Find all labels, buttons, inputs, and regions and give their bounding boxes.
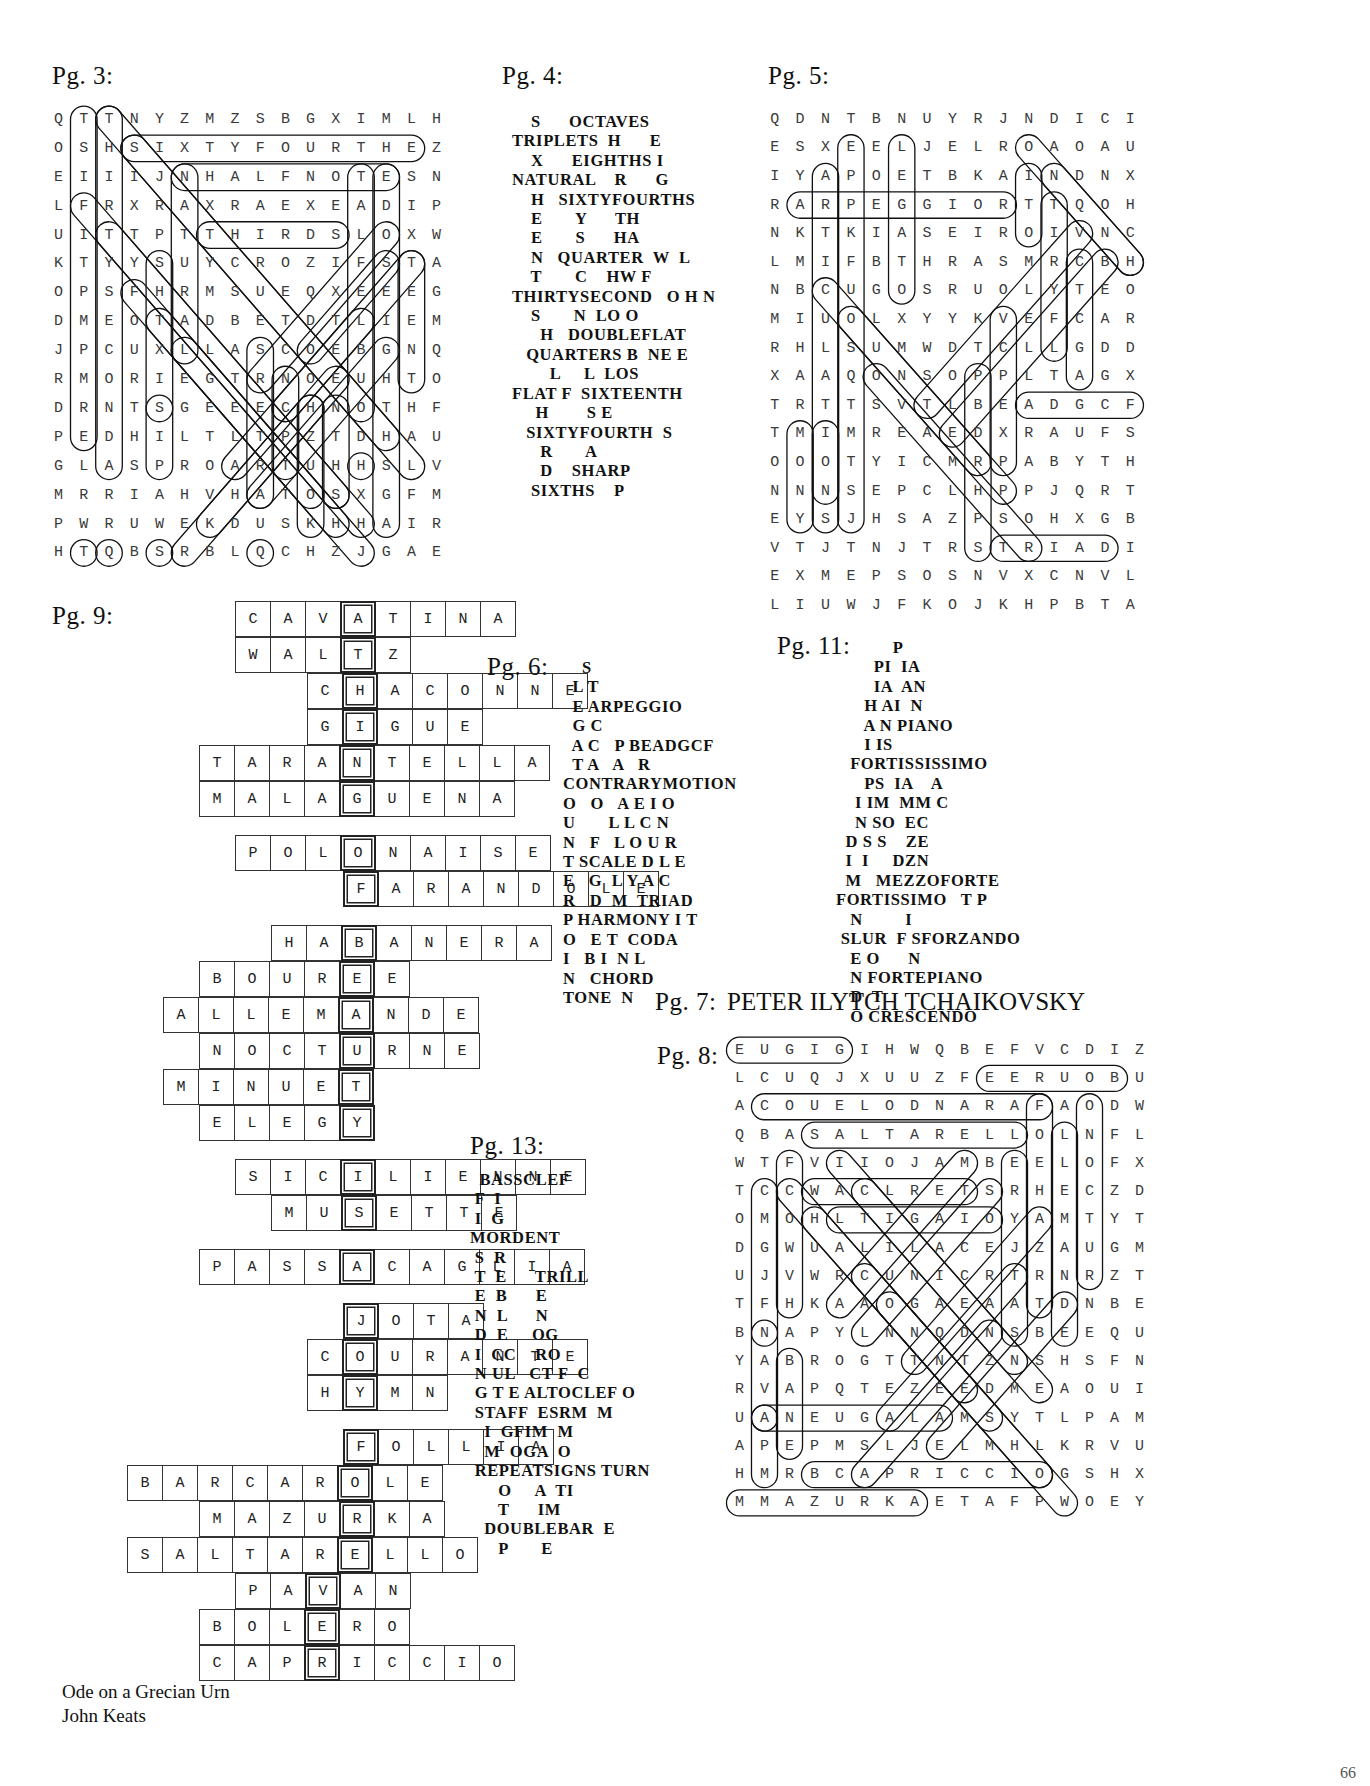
grid-letter: L <box>1050 340 1059 357</box>
grid-letter: I <box>155 429 164 446</box>
grid-letter: T <box>960 1494 969 1511</box>
grid-letter: D <box>985 1381 994 1398</box>
crossword-cell: M <box>199 1501 235 1537</box>
crossword-cell: A <box>306 925 342 961</box>
crossword-cell: E <box>407 1465 443 1501</box>
grid-letter: D <box>1050 111 1059 128</box>
grid-letter: T <box>1075 282 1084 299</box>
grid-letter: Q <box>432 342 441 359</box>
grid-letter: N <box>935 1098 944 1115</box>
grid-letter: T <box>230 371 239 388</box>
grid-letter: B <box>796 282 805 299</box>
grid-letter: E <box>331 371 340 388</box>
grid-letter: F <box>432 400 441 417</box>
crossword-cell: A <box>234 1501 270 1537</box>
crossword-cell: I <box>445 835 481 871</box>
grid-letter: U <box>910 1070 919 1087</box>
grid-letter: C <box>860 1268 869 1285</box>
grid-letter: I <box>1126 540 1135 557</box>
crossword-cell: O <box>378 1429 414 1465</box>
grid-letter: M <box>1060 1211 1069 1228</box>
grid-letter: I <box>860 1155 869 1172</box>
grid-letter: S <box>130 458 139 475</box>
grid-letter: Y <box>1050 282 1059 299</box>
grid-letter: D <box>1126 340 1135 357</box>
answer-ring <box>191 361 355 543</box>
crossword-cell: A <box>270 1573 306 1609</box>
grid-letter: P <box>999 454 1008 471</box>
answer-rings <box>787 129 1149 567</box>
crossword-cell: R <box>302 1465 338 1501</box>
grid-letter: G <box>382 342 391 359</box>
grid-letter: R <box>1100 483 1109 500</box>
grid-letter: T <box>735 1296 744 1313</box>
crossword-cell: O <box>378 1303 414 1339</box>
grid-letter: D <box>205 313 214 330</box>
grid-letter: W <box>735 1155 744 1172</box>
answer-ring <box>121 135 425 162</box>
grid-letter: Y <box>205 255 214 272</box>
grid-letter: I <box>331 255 340 272</box>
grid-letter: G <box>1075 397 1084 414</box>
grid-letter: E <box>948 225 957 242</box>
grid-letter: Y <box>1075 454 1084 471</box>
grid-letter: U <box>821 597 830 614</box>
crossword-row: HYMN <box>308 1376 448 1411</box>
crossword-cell: O <box>374 1609 410 1645</box>
crossword-row: BARCAROLE <box>128 1466 443 1501</box>
crossword-cell: N <box>199 1033 235 1069</box>
grid-letter: K <box>885 1494 894 1511</box>
grid-letter: O <box>835 1353 844 1370</box>
crossword-cell: C <box>235 601 271 637</box>
grid-letter: U <box>1060 1070 1069 1087</box>
grid-letter: I <box>872 225 881 242</box>
crossword-cell: E <box>515 835 551 871</box>
grid-letter: Q <box>935 1325 944 1342</box>
grid-letter: O <box>985 1211 994 1228</box>
grid-letter: X <box>999 425 1008 442</box>
grid-letter: O <box>973 197 982 214</box>
grid-letter: W <box>810 1268 819 1285</box>
grid-letter: E <box>1060 1325 1069 1342</box>
grid-letter: P <box>897 483 906 500</box>
grid-letter: X <box>331 284 340 301</box>
grid-letter: X <box>331 111 340 128</box>
grid-letter: B <box>872 254 881 271</box>
crossword-cell: L <box>197 1537 233 1573</box>
answer-ring <box>976 1065 1127 1091</box>
grid-letter: T <box>960 1353 969 1370</box>
grid-letter: L <box>230 429 239 446</box>
crossword-cell: M <box>377 1375 413 1411</box>
grid-letter: V <box>897 397 906 414</box>
grid-letter: P <box>973 368 982 385</box>
grid-letter: O <box>1024 225 1033 242</box>
grid-letter: D <box>735 1240 744 1257</box>
grid-letter: I <box>79 169 88 186</box>
grid-letter: E <box>846 139 855 156</box>
grid-letter: R <box>1024 540 1033 557</box>
grid-letter: U <box>1135 1438 1144 1455</box>
grid-letter: X <box>180 140 189 157</box>
crossword-cell: A <box>514 745 550 781</box>
grid-letter: O <box>306 342 315 359</box>
grid-letter: L <box>1060 1127 1069 1144</box>
crossword-cell: N <box>483 871 519 907</box>
grid-letter: N <box>910 1268 919 1285</box>
grid-letter: A <box>860 1296 869 1313</box>
grid-letter: S <box>846 483 855 500</box>
grid-letter: M <box>1135 1240 1144 1257</box>
crossword-cell: L <box>269 781 305 817</box>
crossword-cell: T <box>199 745 235 781</box>
crossword-cell: R <box>269 745 305 781</box>
crossword-cell: S <box>304 1249 340 1285</box>
grid-letter: T <box>407 255 416 272</box>
grid-letter: Q <box>104 544 113 561</box>
pg6-label: Pg. 6: <box>487 653 548 681</box>
grid-letter: M <box>382 111 391 128</box>
grid-letter: E <box>1110 1494 1119 1511</box>
crossword-cell: A <box>409 1501 445 1537</box>
grid-letter: P <box>999 368 1008 385</box>
grid-letter: Z <box>230 111 239 128</box>
crossword-cell: L <box>444 745 480 781</box>
grid-letter: D <box>306 227 315 244</box>
